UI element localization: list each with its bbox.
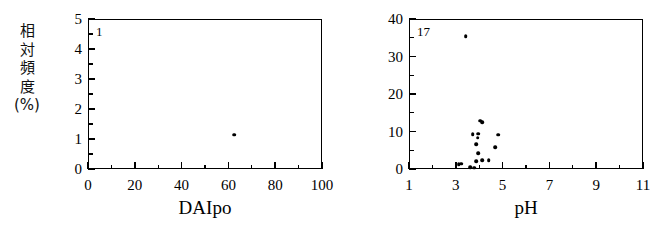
- y-axis-label-char: 度: [10, 78, 44, 97]
- x-axis-tick-label: 100: [311, 178, 334, 193]
- y-axis-tick-major: [88, 78, 95, 80]
- x-axis-tick-minor: [432, 165, 433, 170]
- y-axis-tick-major: [88, 18, 95, 20]
- x-axis-tick-label: 20: [127, 178, 142, 193]
- plot-area-ph: [409, 19, 643, 169]
- x-axis-tick-major: [274, 162, 276, 169]
- x-axis-tick-label: 80: [268, 178, 283, 193]
- y-axis-tick-major: [88, 48, 95, 50]
- x-axis-tick-minor: [111, 165, 112, 170]
- x-axis-tick-major: [408, 162, 410, 169]
- y-axis-tick-label: 2: [42, 102, 82, 117]
- y-axis-label-char: 対: [10, 41, 44, 60]
- x-axis-tick-label: 0: [84, 178, 92, 193]
- y-axis-label: 相 対 頻 度 (%): [10, 22, 44, 115]
- y-axis-tick-minor: [88, 93, 93, 94]
- plot-area-daipo: [88, 19, 322, 169]
- x-axis-tick-label: 1: [405, 178, 413, 193]
- x-axis-tick-major: [595, 162, 597, 169]
- x-axis-tick-minor: [619, 165, 620, 170]
- data-point: [497, 133, 501, 137]
- data-point: [459, 162, 463, 166]
- x-axis-tick-major: [134, 162, 136, 169]
- data-point: [476, 136, 480, 140]
- data-point: [480, 159, 484, 163]
- y-axis-tick-label: 10: [363, 124, 403, 139]
- y-axis-tick-minor: [409, 150, 414, 151]
- y-axis-tick-minor: [88, 63, 93, 64]
- x-axis-tick-major: [228, 162, 230, 169]
- data-point: [475, 159, 479, 163]
- y-axis-tick-label: 4: [42, 42, 82, 57]
- data-point: [476, 151, 480, 155]
- y-axis-tick-label: 30: [363, 49, 403, 64]
- y-axis-tick-label: 0: [42, 162, 82, 177]
- x-axis-tick-label: 60: [221, 178, 236, 193]
- y-axis-tick-major: [88, 108, 95, 110]
- x-axis-tick-label: 5: [499, 178, 507, 193]
- x-axis-tick-minor: [479, 165, 480, 170]
- x-axis-tick-minor: [572, 165, 573, 170]
- x-axis-tick-major: [87, 162, 89, 169]
- x-axis-label: DAIpo: [88, 198, 322, 218]
- x-axis-tick-minor: [251, 165, 252, 170]
- data-point: [476, 132, 480, 136]
- y-axis-tick-label: 0: [363, 162, 403, 177]
- x-axis-tick-minor: [525, 165, 526, 170]
- x-axis-label: pH: [409, 198, 643, 218]
- y-axis-tick-minor: [409, 112, 414, 113]
- x-axis-tick-major: [321, 162, 323, 169]
- y-axis-label-char: 頻: [10, 59, 44, 78]
- y-axis-tick-major: [409, 93, 416, 95]
- y-axis-tick-minor: [88, 123, 93, 124]
- y-axis-label-char: (%): [10, 96, 44, 115]
- x-axis-tick-label: 11: [636, 178, 650, 193]
- y-axis-tick-label: 5: [42, 12, 82, 27]
- data-point: [480, 120, 484, 124]
- data-point: [471, 132, 475, 136]
- x-axis-tick-label: 40: [174, 178, 189, 193]
- y-axis-tick-minor: [409, 37, 414, 38]
- x-axis-tick-major: [642, 162, 644, 169]
- y-axis-tick-major: [409, 56, 416, 58]
- x-axis-tick-label: 9: [592, 178, 600, 193]
- y-axis-tick-major: [409, 131, 416, 133]
- y-axis-tick-minor: [409, 75, 414, 76]
- x-axis-tick-minor: [204, 165, 205, 170]
- y-axis-tick-major: [409, 168, 416, 170]
- x-axis-tick-label: 7: [546, 178, 554, 193]
- y-axis-tick-major: [409, 18, 416, 20]
- point-count-annotation: 17: [417, 25, 430, 38]
- y-axis-tick-label: 20: [363, 87, 403, 102]
- data-point: [487, 159, 491, 163]
- data-point: [475, 142, 479, 146]
- y-axis-tick-label: 40: [363, 12, 403, 27]
- y-axis-tick-label: 3: [42, 72, 82, 87]
- point-count-annotation: 1: [96, 25, 103, 38]
- data-point: [472, 166, 476, 170]
- x-axis-tick-major: [181, 162, 183, 169]
- figure-container: 相 対 頻 度 (%) 1 012345020406080100 DAIpo 1…: [0, 0, 664, 235]
- y-axis-label-char: 相: [10, 22, 44, 41]
- x-axis-tick-label: 3: [452, 178, 460, 193]
- data-point: [464, 34, 468, 38]
- y-axis-tick-label: 1: [42, 132, 82, 147]
- y-axis-tick-major: [88, 138, 95, 140]
- x-axis-tick-minor: [298, 165, 299, 170]
- x-axis-tick-major: [549, 162, 551, 169]
- data-point: [493, 145, 497, 149]
- x-axis-tick-minor: [158, 165, 159, 170]
- y-axis-tick-major: [88, 168, 95, 170]
- x-axis-tick-major: [502, 162, 504, 169]
- y-axis-tick-minor: [88, 33, 93, 34]
- y-axis-tick-minor: [88, 153, 93, 154]
- data-point: [232, 133, 236, 137]
